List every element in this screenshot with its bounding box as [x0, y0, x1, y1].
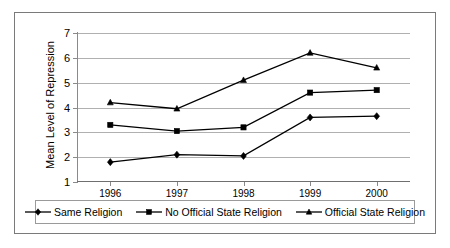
- legend-marker-square: [136, 207, 162, 217]
- y-tick-label: 1: [64, 177, 70, 188]
- y-tick-label: 2: [64, 152, 70, 163]
- chart-legend: Same ReligionNo Official State ReligionO…: [35, 200, 415, 224]
- data-point-diamond: [107, 159, 113, 166]
- x-tick-label: 1998: [232, 189, 254, 199]
- data-point-square: [174, 128, 179, 133]
- data-point-diamond: [374, 113, 380, 120]
- y-tick-label: 3: [64, 127, 70, 138]
- x-tick-mark: [310, 182, 311, 186]
- y-tick-mark: [73, 182, 77, 183]
- data-point-triangle: [307, 50, 313, 56]
- legend-marker-triangle: [296, 207, 322, 217]
- data-point-square: [241, 125, 246, 130]
- y-tick-label: 7: [64, 28, 70, 39]
- data-point-square: [374, 88, 379, 93]
- y-tick-label: 6: [64, 52, 70, 63]
- plot-area: 1234567 19961997199819992000: [77, 33, 410, 182]
- legend-label: Same Religion: [54, 206, 122, 218]
- series-group: [107, 113, 379, 166]
- series-group: [107, 50, 379, 111]
- x-tick-label: 1997: [166, 189, 188, 199]
- x-tick-label: 1996: [99, 189, 121, 199]
- legend-entry-0[interactable]: Same Religion: [25, 206, 122, 218]
- chart-root: Mean Level of Repression 1234567 1996199…: [0, 0, 450, 248]
- series-plot: [77, 33, 410, 182]
- x-tick-label: 2000: [366, 189, 388, 199]
- legend-marker-diamond: [25, 207, 51, 217]
- x-tick-mark: [377, 182, 378, 186]
- y-tick-label: 5: [64, 77, 70, 88]
- x-tick-mark: [110, 182, 111, 186]
- legend-label: No Official State Religion: [165, 206, 282, 218]
- data-point-diamond: [241, 152, 247, 159]
- data-point-square: [308, 90, 313, 95]
- legend-entry-2[interactable]: Official State Religion: [296, 206, 425, 218]
- legend-swatch: [136, 207, 162, 217]
- legend-label: Official State Religion: [325, 206, 425, 218]
- y-tick-label: 4: [64, 102, 70, 113]
- legend-entry-1[interactable]: No Official State Religion: [136, 206, 282, 218]
- data-point-square: [147, 210, 152, 215]
- data-point-diamond: [174, 151, 180, 158]
- chart-frame: Mean Level of Repression 1234567 1996199…: [14, 12, 436, 234]
- series-group: [108, 88, 380, 134]
- data-point-diamond: [35, 209, 40, 215]
- legend-swatch: [25, 207, 51, 217]
- x-tick-label: 1999: [299, 189, 321, 199]
- data-point-square: [108, 122, 113, 127]
- data-point-diamond: [307, 114, 313, 121]
- legend-swatch: [296, 207, 322, 217]
- x-tick-mark: [177, 182, 178, 186]
- x-tick-mark: [244, 182, 245, 186]
- y-axis-title: Mean Level of Repression: [44, 25, 56, 185]
